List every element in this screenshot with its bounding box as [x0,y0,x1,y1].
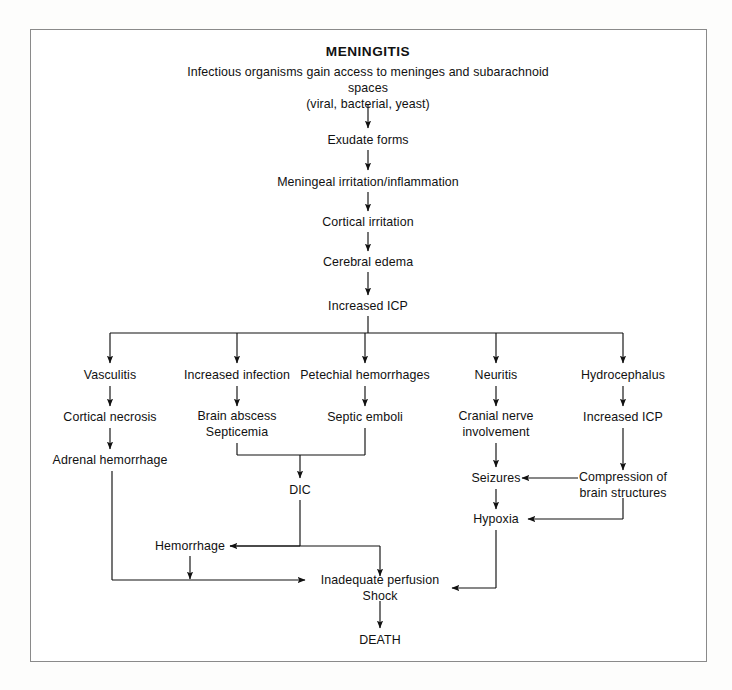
node-increased-icp: Increased ICP [328,298,408,314]
node-increased-infection: Increased infection [184,367,290,383]
node-petechial-hemorrhages: Petechial hemorrhages [300,367,430,383]
node-hypoxia: Hypoxia [473,511,518,527]
node-septic-emboli: Septic emboli [327,409,403,425]
node-dic: DIC [289,482,311,498]
node-increased-icp-secondary: Increased ICP [583,409,663,425]
node-brain-abscess-septicemia: Brain abscess Septicemia [197,408,276,440]
node-compression-brain-structures: Compression of brain structures [579,469,667,501]
node-exudate-forms: Exudate forms [327,132,408,148]
node-death: DEATH [359,632,401,648]
node-inadequate-perfusion-shock: Inadequate perfusion Shock [321,572,439,604]
node-adrenal-hemorrhage: Adrenal hemorrhage [53,452,168,468]
node-vasculitis: Vasculitis [84,367,136,383]
flowchart-page: MENINGITIS Infectious organisms gain acc… [0,0,732,690]
node-neuritis: Neuritis [475,367,518,383]
node-hydrocephalus: Hydrocephalus [581,367,665,383]
node-hemorrhage: Hemorrhage [155,538,225,554]
node-cranial-nerve-involvement: Cranial nerve involvement [459,408,534,440]
diagram-title: MENINGITIS [326,43,410,61]
node-cerebral-edema: Cerebral edema [323,254,413,270]
node-meningeal-irritation: Meningeal irritation/inflammation [277,174,459,190]
node-seizures: Seizures [471,470,520,486]
node-cortical-necrosis: Cortical necrosis [63,409,156,425]
node-intro: Infectious organisms gain access to meni… [186,64,550,112]
node-cortical-irritation: Cortical irritation [322,214,413,230]
